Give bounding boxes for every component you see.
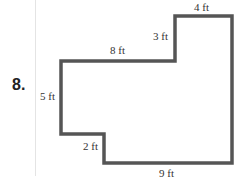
composite-shape-diagram — [0, 0, 247, 187]
label-bottom-9ft: 9 ft — [159, 167, 174, 179]
label-middle-top-8ft: 8 ft — [110, 44, 125, 56]
label-upper-step-3ft: 3 ft — [153, 30, 168, 42]
label-left-5ft: 5 ft — [40, 90, 55, 102]
label-lower-step-2ft: 2 ft — [83, 140, 98, 152]
label-top-4ft: 4 ft — [194, 1, 209, 13]
